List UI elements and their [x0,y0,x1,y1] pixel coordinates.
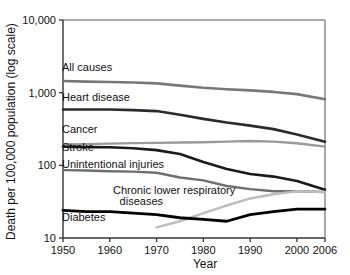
series-label-diabetes: Diabetes [62,211,106,223]
series-label-cancer: Cancer [62,123,98,135]
y-tick-label: 10 [44,232,56,244]
x-tick-label: 1990 [238,244,262,256]
series-label-heart-disease: Heart disease [62,91,130,103]
y-axis-title: Death per 100,000 population (log scale) [4,23,18,240]
series-label-unintentional-injuries: Unintentional injuries [62,158,165,170]
series-line-cancer [63,141,325,147]
x-tick-label: 2000 [285,244,309,256]
chart-figure: 10,0001,00010010 19501960197019801990200… [0,0,350,275]
line-chart: 10,0001,00010010 19501960197019801990200… [0,0,350,275]
x-tick-label: 1960 [98,244,122,256]
x-tick-label: 1980 [191,244,215,256]
x-tick-label: 1970 [144,244,168,256]
y-tick-label: 100 [38,159,56,171]
x-axis-title: Year [193,257,217,271]
y-tick-label: 1,000 [28,87,56,99]
x-axis-ticks: 1950196019701980199020002006 [51,238,337,256]
y-tick-label: 10,000 [22,14,56,26]
series-line-heart-disease [63,109,325,141]
x-tick-label: 2006 [313,244,337,256]
y-axis-ticks: 10,0001,00010010 [22,14,63,244]
x-tick-label: 1950 [51,244,75,256]
series-label-all-causes: All causes [62,61,113,73]
series-label-chronic-lower-respiratory-diseases-line2: diseases [120,195,164,207]
axis-lines [63,20,325,238]
series-label-stroke: Stroke [62,141,94,153]
